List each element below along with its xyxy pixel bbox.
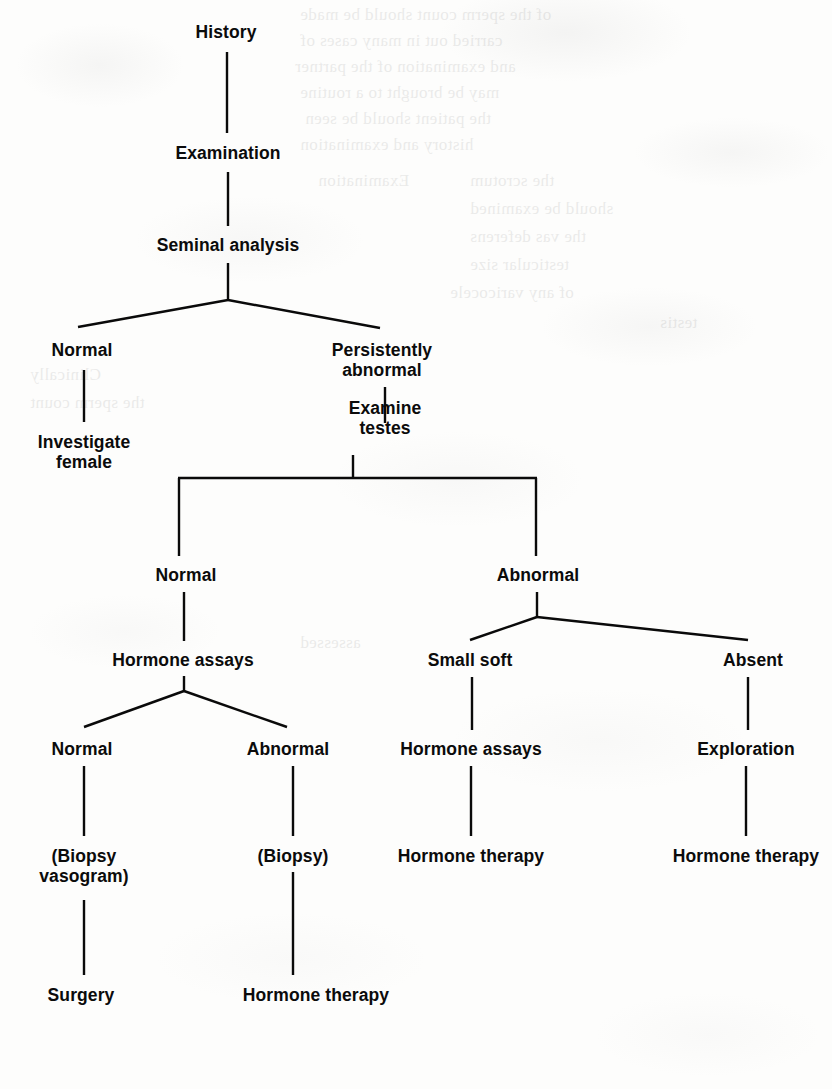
node-seminal-analysis: Seminal analysis (157, 235, 300, 255)
node-hormone-therapy-absent: Hormone therapy (673, 846, 819, 866)
node-investigate-female: Investigate female (38, 432, 131, 472)
edge-abnormal-to-small-soft (470, 617, 537, 640)
node-hormone-therapy-small-soft: Hormone therapy (398, 846, 544, 866)
edge-hormone-assays-to-normal (84, 691, 184, 727)
node-testes-normal: Normal (156, 565, 217, 585)
node-seminal-normal: Normal (52, 340, 113, 360)
node-hormone-normal: Normal (52, 739, 113, 759)
node-history: History (196, 22, 257, 42)
node-hormone-assays-left: Hormone assays (112, 650, 253, 670)
node-testes-abnormal: Abnormal (497, 565, 579, 585)
node-persistently-abnormal: Persistently abnormal (332, 340, 432, 380)
node-examination: Examination (175, 143, 280, 163)
edge-abnormal-to-absent (537, 617, 748, 640)
flowchart-edges (0, 0, 832, 1089)
edge-seminal-to-persistently-abnormal (228, 300, 380, 328)
node-hormone-therapy-biopsy: Hormone therapy (243, 985, 389, 1005)
node-examine-testes: Examine testes (349, 398, 422, 438)
node-hormone-abnormal: Abnormal (247, 739, 329, 759)
node-absent: Absent (723, 650, 783, 670)
infertility-investigation-flowchart: History Examination Seminal analysis Nor… (0, 0, 832, 1089)
node-biopsy: (Biopsy) (258, 846, 329, 866)
edge-hormone-assays-to-abnormal (184, 691, 287, 727)
node-exploration: Exploration (697, 739, 794, 759)
scanned-page: of the sperm count should be madecarried… (0, 0, 832, 1089)
node-surgery: Surgery (48, 985, 115, 1005)
node-small-soft: Small soft (428, 650, 513, 670)
node-biopsy-vasogram: (Biopsy vasogram) (39, 846, 128, 886)
node-hormone-assays-right: Hormone assays (400, 739, 541, 759)
edge-seminal-to-normal (78, 300, 228, 327)
